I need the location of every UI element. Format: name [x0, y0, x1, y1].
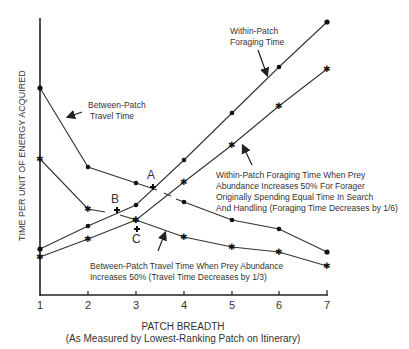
x-tick-5: 5 [224, 299, 240, 311]
label-between-patch-reduced: Between-Patch Travel Time When Prey Abun… [90, 261, 283, 283]
x-axis-title-main: PATCH BREADTH [33, 321, 333, 333]
x-tick-6: 6 [271, 299, 287, 311]
label-between-patch: Between-Patch Travel Time [88, 100, 146, 122]
svg-text:✱: ✱ [36, 154, 44, 164]
label-line: Within-Patch Foraging Time When Prey [216, 170, 398, 181]
svg-text:✱: ✱ [84, 234, 92, 244]
svg-text:✱: ✱ [36, 252, 44, 262]
svg-text:✱: ✱ [323, 261, 331, 271]
x-tick-7: 7 [319, 299, 335, 311]
label-within-patch-reduced: Within-Patch Foraging Time When Prey Abu… [216, 170, 398, 214]
svg-text:✱: ✱ [228, 140, 236, 150]
svg-text:✱: ✱ [275, 101, 283, 111]
annotation-a: A [147, 168, 155, 182]
label-line: Travel Time [88, 111, 146, 122]
label-line: Between-Patch Travel Time When Prey Abun… [90, 261, 283, 272]
svg-text:✱: ✱ [275, 247, 283, 257]
svg-text:✱: ✱ [132, 215, 140, 225]
annotation-b: B [111, 192, 119, 206]
x-tick-2: 2 [80, 299, 96, 311]
x-tick-3: 3 [128, 299, 144, 311]
x-axis-title: PATCH BREADTH (As Measured by Lowest-Ran… [33, 321, 333, 345]
x-tick-1: 1 [32, 299, 48, 311]
series-within-patch [37, 19, 329, 251]
svg-text:✱: ✱ [228, 242, 236, 252]
annotation-c: C [132, 232, 141, 246]
y-axis-title: TIME PER UNIT OF ENERGY ACQUIRED [17, 70, 27, 241]
label-line: Between-Patch [88, 100, 146, 111]
x-axis-title-sub: (As Measured by Lowest-Ranking Patch on … [33, 333, 333, 345]
label-line: Within-Patch [230, 26, 284, 37]
label-line: Originally Spending Equal Time In Search [216, 192, 398, 203]
svg-text:✱: ✱ [180, 232, 188, 242]
svg-text:✱: ✱ [323, 64, 331, 74]
svg-text:✱: ✱ [180, 177, 188, 187]
label-line: Foraging Time [230, 37, 284, 48]
label-within-patch: Within-Patch Foraging Time [230, 26, 284, 48]
label-line: Abundance Increases 50% For Forager [216, 181, 398, 192]
label-line: Increases 50% (Travel Time Decreases by … [90, 272, 283, 283]
label-line: And Handling (Foraging Time Decreases by… [216, 203, 398, 214]
svg-text:✱: ✱ [84, 204, 92, 214]
x-tick-4: 4 [176, 299, 192, 311]
